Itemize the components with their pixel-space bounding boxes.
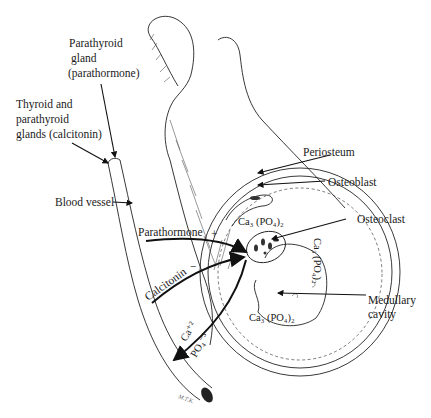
label-osteoblast: Osteoblast (328, 176, 377, 188)
label-blood-vessel: Blood vessel (55, 196, 114, 208)
label-thyroid-1: Thyroid and (16, 98, 73, 111)
label-medullary-2: cavity (368, 308, 396, 321)
label-ca-phosphate-top: Ca₃ (PO₄)₂ (238, 216, 284, 228)
label-periosteum: Periosteum (303, 146, 355, 158)
osteoblast-cell-icon (250, 196, 260, 200)
label-calcium-ion: Ca⁺² (178, 320, 198, 343)
vessel-lumen-icon (199, 386, 216, 405)
label-parathormone: Parathormone (138, 226, 203, 238)
label-ca-phosphate-right: Ca₃ (PO₄)₂ (311, 238, 323, 284)
label-parathormone-sign: + (211, 228, 218, 240)
bone-cross-section (200, 168, 400, 376)
label-thyroid-2: parathyroid (16, 113, 69, 126)
label-parathyroid-gland-2: gland (71, 52, 97, 65)
labels: Parathyroid gland (parathormone) Thyroid… (16, 37, 416, 405)
arrows (72, 84, 366, 360)
bone-calcium-diagram: Parathyroid gland (parathormone) Thyroid… (0, 0, 431, 418)
label-calcitonin-sign: − (190, 260, 197, 272)
label-ca-phosphate-bottom: Ca₃ (PO₄)₂ (249, 312, 295, 324)
label-medullary-1: Medullary (368, 294, 416, 307)
diagram-canvas: Parathyroid gland (parathormone) Thyroid… (0, 0, 431, 418)
label-osteoclast: Osteoclast (357, 213, 406, 225)
bone-illustration (148, 16, 345, 345)
label-parathyroid-gland-1: Parathyroid (69, 37, 123, 50)
label-parathyroid-gland-3: (parathormone) (68, 67, 140, 80)
label-thyroid-3: glands (calcitonin) (16, 128, 102, 141)
